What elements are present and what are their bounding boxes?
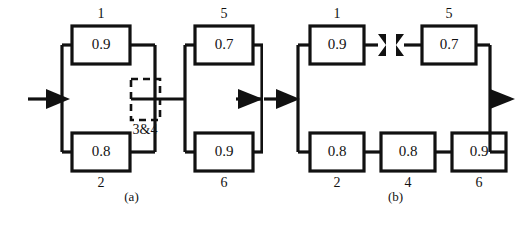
block-5-id: 5 [221,6,228,21]
output-arrow [238,89,263,109]
cut-mark-right [396,34,404,56]
block-6-value: 0.9 [470,143,489,159]
block-1-value: 0.9 [328,36,347,52]
block-1-id: 1 [334,6,341,21]
block-1-id: 1 [98,6,105,21]
block-6-value: 0.9 [215,143,234,159]
figure-root: 0.9 1 0.8 2 3&4 0.7 5 0.9 6 [0,0,527,228]
block-2-id: 2 [334,175,341,190]
block-6-id: 6 [476,175,483,190]
output-arrow [490,89,515,109]
block-2-id: 2 [98,175,105,190]
block-2-value: 0.8 [92,143,111,159]
block-4-value: 0.8 [399,143,418,159]
block-2-value: 0.8 [328,143,347,159]
block-4-id: 4 [405,175,412,190]
block-6-id: 6 [221,175,228,190]
block-5-value: 0.7 [215,36,234,52]
input-arrow [46,89,70,109]
panel-b-caption: (b) [264,189,527,205]
cut-mark-left [378,34,386,56]
diagram-panel-a: 0.9 1 0.8 2 3&4 0.7 5 0.9 6 [0,0,263,228]
input-arrow [276,89,300,109]
block-5-value: 0.7 [440,36,459,52]
diagram-panel-b: 0.9 1 0.7 5 0.8 2 0.8 4 0.9 [264,0,527,228]
panel-a-caption: (a) [0,189,263,205]
block-5-id: 5 [446,6,453,21]
block-1-value: 0.9 [92,36,111,52]
dashed-group-3-4-label: 3&4 [133,122,158,137]
